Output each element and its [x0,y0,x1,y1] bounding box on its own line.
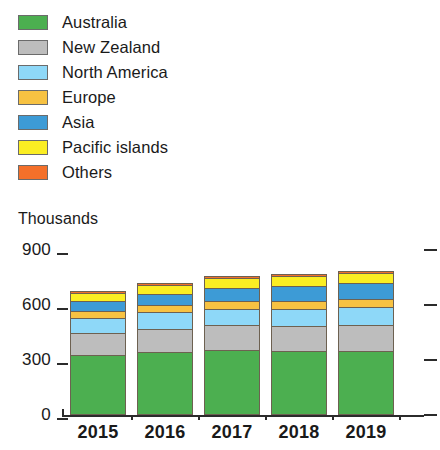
bar-segment-2018-north-america[interactable] [271,309,327,326]
legend-item-pacific-islands: Pacific islands [18,135,238,160]
bar-2019[interactable] [338,271,394,415]
x-axis-labels: 20152016201720182019 [0,422,440,450]
x-axis-label-2019: 2019 [332,422,400,443]
bar-2017[interactable] [204,276,260,415]
bar-segment-2015-new-zealand[interactable] [70,333,126,354]
bar-2015[interactable] [70,291,126,415]
legend-item-label: New Zealand [62,39,160,56]
legend-item-australia: Australia [18,10,238,35]
axis-units-caption: Thousands [18,210,98,228]
bar-segment-2017-pacific-islands[interactable] [204,278,260,288]
bar-segment-2018-europe[interactable] [271,301,327,308]
legend-item-label: Others [62,164,112,181]
bar-segment-2016-australia[interactable] [137,352,193,415]
bar-segment-2018-australia[interactable] [271,351,327,415]
bar-segment-2019-pacific-islands[interactable] [338,273,394,283]
legend-swatch-icon [18,15,48,30]
bar-segment-2016-north-america[interactable] [137,312,193,329]
bar-segment-2015-europe[interactable] [70,311,126,318]
legend-item-label: Asia [62,114,95,131]
legend-swatch-icon [18,115,48,130]
legend-item-others: Others [18,160,238,185]
legend-item-europe: Europe [18,85,238,110]
legend-swatch-icon [18,90,48,105]
legend-swatch-icon [18,165,48,180]
legend-swatch-icon [18,65,48,80]
x-axis-baseline [62,415,424,417]
legend-item-new-zealand: New Zealand [18,35,238,60]
x-axis-label-2015: 2015 [64,422,132,443]
bar-segment-2019-australia[interactable] [338,351,394,415]
bar-segment-2018-new-zealand[interactable] [271,326,327,351]
legend-item-label: Europe [62,89,116,106]
chart-legend: AustraliaNew ZealandNorth AmericaEuropeA… [18,10,238,185]
x-axis-label-2016: 2016 [131,422,199,443]
x-axis-tick-mark-2015 [131,415,133,420]
bar-2018[interactable] [271,274,327,415]
x-axis-label-2017: 2017 [198,422,266,443]
bar-segment-2016-asia[interactable] [137,294,193,305]
bar-segment-2019-north-america[interactable] [338,307,394,325]
bar-segment-2015-australia[interactable] [70,355,126,416]
bar-group-container [0,240,440,425]
legend-swatch-icon [18,140,48,155]
x-axis-tick-mark-2017 [265,415,267,420]
legend-item-label: Pacific islands [62,139,168,156]
bar-segment-2016-new-zealand[interactable] [137,329,193,352]
bar-segment-2017-australia[interactable] [204,350,260,415]
bar-segment-2015-asia[interactable] [70,301,126,310]
bar-segment-2019-new-zealand[interactable] [338,325,394,351]
legend-item-label: North America [62,64,168,81]
bar-segment-2016-europe[interactable] [137,305,193,312]
bar-segment-2018-pacific-islands[interactable] [271,276,327,286]
legend-item-north-america: North America [18,60,238,85]
bar-segment-2017-new-zealand[interactable] [204,325,260,350]
legend-item-label: Australia [62,14,127,31]
chart-plot-area: 0300600900 [0,240,440,425]
bar-segment-2019-asia[interactable] [338,283,394,299]
bar-segment-2017-europe[interactable] [204,301,260,308]
legend-swatch-icon [18,40,48,55]
x-axis-tick-mark-2016 [198,415,200,420]
x-axis-tick-mark-2018 [332,415,334,420]
y-axis-origin-tick [62,409,64,417]
bar-segment-2015-pacific-islands[interactable] [70,293,126,301]
bar-segment-2018-asia[interactable] [271,286,327,302]
legend-item-asia: Asia [18,110,238,135]
bar-segment-2017-north-america[interactable] [204,309,260,326]
bar-2016[interactable] [137,283,193,415]
bar-segment-2019-europe[interactable] [338,299,394,307]
bar-segment-2017-asia[interactable] [204,288,260,302]
bar-segment-2016-pacific-islands[interactable] [137,285,193,294]
x-axis-label-2018: 2018 [265,422,333,443]
x-axis-tick-mark-2019 [399,415,401,420]
bar-segment-2015-north-america[interactable] [70,318,126,334]
